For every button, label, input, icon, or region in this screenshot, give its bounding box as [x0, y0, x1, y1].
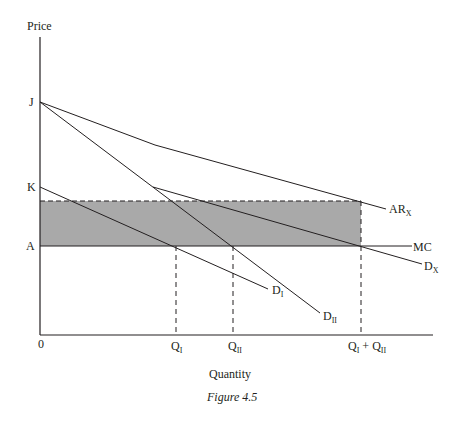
label-j: J [29, 95, 34, 109]
label-q2: QII [228, 339, 242, 355]
label-q1: QI [171, 339, 183, 355]
arx-curve [40, 102, 386, 209]
origin-label: 0 [38, 337, 44, 351]
label-dx: DX [424, 259, 439, 275]
label-q1-plus-q2: QI + QII [348, 339, 386, 355]
y-axis-title: Price [27, 19, 52, 33]
label-k: K [27, 180, 36, 194]
label-arx: ARX [389, 202, 412, 218]
label-d2: DII [323, 309, 337, 325]
label-a: A [26, 239, 35, 253]
label-d1: DI [272, 283, 284, 299]
label-mc: MC [413, 240, 432, 254]
x-axis-title: Quantity [209, 367, 251, 381]
price-discrimination-diagram: Price Quantity J K A 0 QI QII QI + QII A… [0, 0, 455, 424]
figure-caption: Figure 4.5 [206, 390, 257, 404]
